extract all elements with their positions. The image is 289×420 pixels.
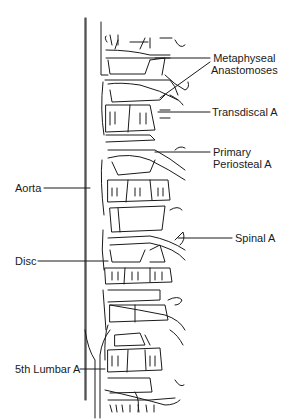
label-metaphyseal-anastomoses: Metaphyseal Anastomoses (211, 52, 278, 76)
label-primary-line2: Periosteal A (213, 158, 272, 170)
aorta-vessel (85, 18, 110, 418)
label-primary-periosteal-artery: Primary Periosteal A (213, 146, 272, 170)
label-transdiscal-artery: Transdiscal A (212, 106, 278, 118)
label-metaphyseal-line2: Anastomoses (211, 64, 278, 76)
label-aorta: Aorta (15, 182, 41, 194)
label-disc: Disc (15, 255, 36, 267)
label-spinal-artery: Spinal A (235, 232, 275, 244)
label-5th-lumbar-artery: 5th Lumbar A (15, 363, 80, 375)
lateral-branches (165, 75, 189, 386)
vertebral-column (101, 22, 185, 412)
label-primary-line1: Primary (213, 146, 272, 158)
label-metaphyseal-line1: Metaphyseal (211, 52, 278, 64)
spine-artery-diagram: Metaphyseal Anastomoses Transdiscal A Pr… (0, 0, 289, 420)
